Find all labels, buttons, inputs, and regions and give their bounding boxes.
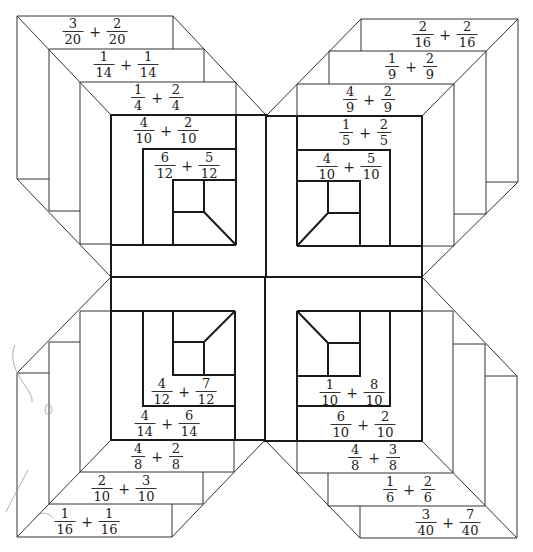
fraction: 114 xyxy=(138,50,159,79)
problem-tl-5: 612 + 512 xyxy=(155,151,220,180)
problem-bl-4: 210 + 310 xyxy=(92,474,157,503)
fraction: 712 xyxy=(196,377,217,406)
fraction: 29 xyxy=(423,52,437,81)
fraction: 740 xyxy=(460,508,481,537)
fraction: 510 xyxy=(361,152,382,181)
problem-bl-1: 412 + 712 xyxy=(152,377,217,406)
fraction-spiral-diagram: 320 + 220 114 + 114 14 + 24 410 + 210 61… xyxy=(0,0,533,552)
fraction: 48 xyxy=(348,443,362,472)
fraction: 29 xyxy=(381,85,395,114)
fraction: 25 xyxy=(377,118,391,147)
fraction: 48 xyxy=(131,442,145,471)
fraction: 26 xyxy=(421,475,435,504)
problem-br-5: 340 + 740 xyxy=(416,508,481,537)
plus-sign: + xyxy=(403,482,415,498)
problem-tr-4: 15 + 25 xyxy=(339,118,391,147)
problem-tr-1: 216 + 216 xyxy=(413,20,478,49)
problem-br-4: 16 + 26 xyxy=(383,475,435,504)
plus-sign: + xyxy=(181,158,193,174)
plus-sign: + xyxy=(161,416,173,432)
problem-tl-2: 114 + 114 xyxy=(94,50,159,79)
diagram-lines xyxy=(0,0,533,552)
fraction: 210 xyxy=(178,116,199,145)
plus-sign: + xyxy=(343,159,355,175)
problem-tl-3: 14 + 24 xyxy=(131,83,183,112)
fraction: 612 xyxy=(155,151,176,180)
problem-br-1: 110 + 810 xyxy=(320,378,385,407)
plus-sign: + xyxy=(359,125,371,141)
plus-sign: + xyxy=(151,449,163,465)
pencil-scribbles xyxy=(6,345,53,518)
plus-sign: + xyxy=(363,92,375,108)
fraction: 28 xyxy=(169,442,183,471)
problem-br-3: 48 + 38 xyxy=(348,443,400,472)
fraction: 410 xyxy=(134,116,155,145)
problem-tl-1: 320 + 220 xyxy=(63,17,128,46)
fraction: 114 xyxy=(94,50,115,79)
plus-sign: + xyxy=(160,123,172,139)
fraction: 16 xyxy=(383,475,397,504)
fraction: 24 xyxy=(169,83,183,112)
fraction: 15 xyxy=(339,118,353,147)
fraction: 610 xyxy=(331,410,352,439)
fraction: 14 xyxy=(131,83,145,112)
fraction: 216 xyxy=(457,20,478,49)
fraction: 512 xyxy=(199,151,220,180)
fraction: 216 xyxy=(413,20,434,49)
plus-sign: + xyxy=(89,24,101,40)
plus-sign: + xyxy=(368,450,380,466)
plus-sign: + xyxy=(118,481,130,497)
problem-br-2: 610 + 210 xyxy=(331,410,396,439)
plus-sign: + xyxy=(357,417,369,433)
fraction: 320 xyxy=(63,17,84,46)
fraction: 614 xyxy=(179,409,200,438)
fraction: 410 xyxy=(317,152,338,181)
problem-bl-5: 116 + 116 xyxy=(55,507,120,536)
fraction: 110 xyxy=(320,378,341,407)
problem-tr-3: 49 + 29 xyxy=(343,85,395,114)
fraction: 810 xyxy=(364,378,385,407)
fraction: 49 xyxy=(343,85,357,114)
fraction: 210 xyxy=(92,474,113,503)
plus-sign: + xyxy=(81,514,93,530)
fraction: 412 xyxy=(152,377,173,406)
plus-sign: + xyxy=(346,385,358,401)
fraction: 116 xyxy=(99,507,120,536)
problem-bl-2: 414 + 614 xyxy=(135,409,200,438)
plus-sign: + xyxy=(178,384,190,400)
plus-sign: + xyxy=(405,59,417,75)
plus-sign: + xyxy=(442,515,454,531)
fraction: 19 xyxy=(385,52,399,81)
plus-sign: + xyxy=(151,90,163,106)
fraction: 38 xyxy=(386,443,400,472)
plus-sign: + xyxy=(120,57,132,73)
fraction: 116 xyxy=(55,507,76,536)
problem-tr-2: 19 + 29 xyxy=(385,52,437,81)
fraction: 340 xyxy=(416,508,437,537)
fraction: 210 xyxy=(375,410,396,439)
plus-sign: + xyxy=(439,27,451,43)
fraction: 310 xyxy=(136,474,157,503)
problem-tr-5: 410 + 510 xyxy=(317,152,382,181)
problem-bl-3: 48 + 28 xyxy=(131,442,183,471)
problem-tl-4: 410 + 210 xyxy=(134,116,199,145)
fraction: 414 xyxy=(135,409,156,438)
fraction: 220 xyxy=(107,17,128,46)
